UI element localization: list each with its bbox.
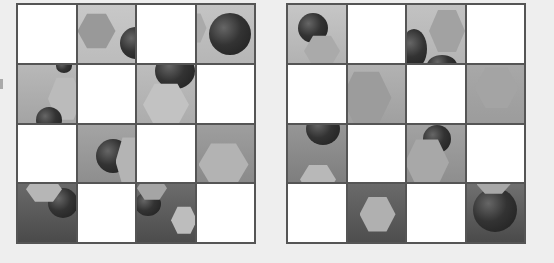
image-tile-r1c0[interactable] xyxy=(18,65,76,123)
blank-tile-r2c2[interactable] xyxy=(137,125,195,183)
blank-tile-r3c3[interactable] xyxy=(197,184,255,242)
image-tile-r3c2[interactable] xyxy=(137,184,195,242)
image-tile-r0c2[interactable] xyxy=(407,5,465,63)
hexagon-shape xyxy=(348,71,392,123)
hexagon-shape xyxy=(197,13,207,43)
image-tile-r1c3[interactable] xyxy=(467,65,525,123)
image-tile-r2c0[interactable] xyxy=(288,125,346,183)
sphere-shape xyxy=(120,27,136,59)
blank-tile-r1c0[interactable] xyxy=(288,65,346,123)
image-tile-r1c2[interactable] xyxy=(137,65,195,123)
sphere-shape xyxy=(407,29,427,63)
sphere-shape xyxy=(473,188,517,232)
blank-tile-r1c1[interactable] xyxy=(78,65,136,123)
sphere-shape xyxy=(209,13,251,55)
image-tile-r2c3[interactable] xyxy=(197,125,255,183)
image-tile-r0c1[interactable] xyxy=(78,5,136,63)
hexagon-shape xyxy=(78,13,116,49)
blank-tile-r2c3[interactable] xyxy=(467,125,525,183)
sphere-shape xyxy=(56,65,72,73)
edge-marker xyxy=(0,79,3,89)
blank-tile-r0c1[interactable] xyxy=(348,5,406,63)
image-tile-r3c0[interactable] xyxy=(18,184,76,242)
blank-tile-r2c0[interactable] xyxy=(18,125,76,183)
hexagon-shape xyxy=(300,165,336,183)
image-tile-r0c3[interactable] xyxy=(197,5,255,63)
hexagon-shape xyxy=(171,206,195,234)
sphere-shape xyxy=(427,55,457,63)
image-tile-r2c2[interactable] xyxy=(407,125,465,183)
image-tile-r3c1[interactable] xyxy=(348,184,406,242)
image-tile-r0c0[interactable] xyxy=(288,5,346,63)
hexagon-shape xyxy=(360,196,396,232)
image-tile-r1c1[interactable] xyxy=(348,65,406,123)
blank-tile-r3c2[interactable] xyxy=(407,184,465,242)
image-grid-left xyxy=(16,3,256,244)
blank-tile-r1c2[interactable] xyxy=(407,65,465,123)
hexagon-shape xyxy=(199,143,249,183)
blank-tile-r2c1[interactable] xyxy=(348,125,406,183)
image-tile-r3c3[interactable] xyxy=(467,184,525,242)
hexagon-shape xyxy=(143,83,189,123)
blank-tile-r3c0[interactable] xyxy=(288,184,346,242)
blank-tile-r0c2[interactable] xyxy=(137,5,195,63)
blank-tile-r1c3[interactable] xyxy=(197,65,255,123)
blank-tile-r0c0[interactable] xyxy=(18,5,76,63)
image-tile-r2c1[interactable] xyxy=(78,125,136,183)
sphere-shape xyxy=(306,125,340,145)
blank-tile-r3c1[interactable] xyxy=(78,184,136,242)
blank-tile-r0c3[interactable] xyxy=(467,5,525,63)
hexagon-shape xyxy=(429,9,465,53)
hexagon-shape xyxy=(475,67,519,109)
image-grid-right xyxy=(286,3,526,244)
